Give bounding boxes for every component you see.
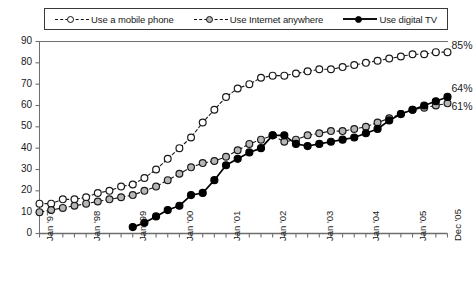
series-end-label: 61%	[452, 100, 473, 112]
y-axis-tick-label: 30	[6, 163, 32, 174]
x-axis-tick-label: Jan '00	[184, 210, 195, 240]
y-axis-tick-label: 20	[6, 184, 32, 195]
x-axis-tick-label: Jan '01	[231, 210, 242, 240]
x-axis-tick-label: Dec '05	[452, 209, 463, 241]
y-axis-tick-label: 50	[6, 120, 32, 131]
series-end-label: 64%	[452, 82, 473, 94]
x-axis-tick-label: Jan '03	[324, 210, 335, 240]
y-axis-tick-label: 60	[6, 99, 32, 110]
series-end-label: 85%	[452, 39, 473, 51]
x-axis-tick-label: Jan '98	[91, 210, 102, 240]
y-axis-tick-label: 10	[6, 206, 32, 217]
x-axis-tick-label: Jan '97	[44, 210, 55, 240]
x-axis-tick-label: Jan '04	[370, 210, 381, 240]
x-axis-tick-label: Jan '02	[277, 210, 288, 240]
x-axis-tick-label: Jan '99	[137, 210, 148, 240]
y-axis-tick-label: 40	[6, 142, 32, 153]
y-axis-tick-label: 70	[6, 78, 32, 89]
chart-canvas	[0, 0, 475, 292]
x-axis-tick-label: Jan '05	[417, 210, 428, 240]
y-axis-tick-label: 0	[6, 227, 32, 238]
y-axis-tick-label: 80	[6, 56, 32, 67]
y-axis-tick-label: 90	[6, 35, 32, 46]
